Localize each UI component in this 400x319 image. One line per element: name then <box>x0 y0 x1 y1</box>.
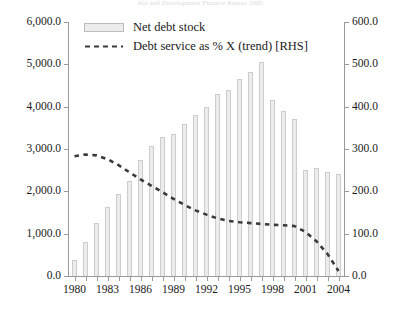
left-axis-label-3000: 3,000.0 <box>27 143 62 155</box>
bar-1986 <box>138 160 144 276</box>
bar-2002 <box>314 168 320 276</box>
x-axis-tick <box>306 277 307 281</box>
bar-1980 <box>72 260 78 276</box>
right-axis-tick <box>345 107 349 108</box>
x-axis-tick <box>251 277 252 281</box>
left-axis-tick <box>64 149 68 150</box>
bar-1992 <box>204 107 210 276</box>
bar-1999 <box>281 111 287 276</box>
x-axis-tick <box>262 277 263 281</box>
right-axis-label-500: 500.0 <box>352 58 378 70</box>
left-axis-label-6000: 6,000.0 <box>27 16 62 28</box>
x-axis-tick <box>97 277 98 281</box>
right-axis-label-300: 300.0 <box>352 143 378 155</box>
x-axis-tick <box>75 277 76 281</box>
right-axis-label-400: 400.0 <box>352 101 378 113</box>
x-axis-tick <box>207 277 208 281</box>
bar-1990 <box>182 124 188 276</box>
bar-1991 <box>193 115 199 276</box>
bar-2004 <box>336 174 342 276</box>
x-axis-tick <box>240 277 241 281</box>
left-axis-label-5000: 5,000.0 <box>27 58 62 70</box>
x-axis-tick <box>119 277 120 281</box>
bar-1998 <box>270 100 276 276</box>
right-axis-label-200: 200.0 <box>352 185 378 197</box>
bar-1987 <box>149 146 155 276</box>
x-axis-label-1998: 1998 <box>261 284 284 296</box>
x-axis-label-1986: 1986 <box>129 284 152 296</box>
right-axis-label-600: 600.0 <box>352 16 378 28</box>
x-axis-tick <box>163 277 164 281</box>
right-axis-label-100: 100.0 <box>352 228 378 240</box>
left-axis-label-0: 0.0 <box>47 270 61 282</box>
x-axis-label-2004: 2004 <box>327 284 350 296</box>
bar-1996 <box>248 72 254 276</box>
bar-1985 <box>127 181 133 276</box>
x-axis-tick <box>141 277 142 281</box>
left-axis-tick <box>64 107 68 108</box>
source-caption: Aid and Development Finance Report 2005 <box>0 0 400 7</box>
x-axis-label-2001: 2001 <box>294 284 317 296</box>
bar-1983 <box>105 207 111 276</box>
x-axis-label-1980: 1980 <box>63 284 86 296</box>
bar-1988 <box>160 137 166 276</box>
x-axis-tick <box>229 277 230 281</box>
right-axis-tick <box>345 64 349 65</box>
x-axis-tick <box>317 277 318 281</box>
right-axis-tick <box>345 276 349 277</box>
x-axis-tick <box>328 277 329 281</box>
x-axis-tick <box>273 277 274 281</box>
left-axis-label-2000: 2,000.0 <box>27 185 62 197</box>
left-axis-label-4000: 4,000.0 <box>27 101 62 113</box>
bar-1993 <box>215 94 221 276</box>
right-axis-tick <box>345 234 349 235</box>
x-axis-tick <box>86 277 87 281</box>
left-axis-tick <box>64 234 68 235</box>
x-axis-tick <box>295 277 296 281</box>
bar-1997 <box>259 62 265 276</box>
x-axis-tick <box>152 277 153 281</box>
plot-area: 0.01,000.02,000.03,000.04,000.05,000.06,… <box>68 22 345 277</box>
bar-2003 <box>325 172 331 276</box>
right-axis-tick <box>345 149 349 150</box>
left-axis-tick <box>64 276 68 277</box>
bar-series-net-debt-stock <box>68 22 345 277</box>
left-axis-label-1000: 1,000.0 <box>27 228 62 240</box>
bar-1994 <box>226 90 232 276</box>
bar-1989 <box>171 134 177 276</box>
bar-1982 <box>94 223 100 276</box>
right-axis-tick <box>345 22 349 23</box>
left-axis-tick <box>64 22 68 23</box>
bar-1984 <box>116 194 122 276</box>
x-axis-tick <box>218 277 219 281</box>
x-axis-label-1989: 1989 <box>162 284 185 296</box>
x-axis-label-1995: 1995 <box>228 284 251 296</box>
x-axis-tick <box>284 277 285 281</box>
bar-2001 <box>303 170 309 276</box>
right-axis-label-0: 0.0 <box>352 270 366 282</box>
left-axis-tick <box>64 191 68 192</box>
x-axis-tick <box>196 277 197 281</box>
right-axis-tick <box>345 191 349 192</box>
x-axis-tick <box>339 277 340 281</box>
x-axis-label-1983: 1983 <box>96 284 119 296</box>
x-axis-label-1992: 1992 <box>195 284 218 296</box>
x-axis-tick <box>130 277 131 281</box>
x-axis-tick <box>174 277 175 281</box>
left-axis-tick <box>64 64 68 65</box>
chart-figure: Aid and Development Finance Report 2005 … <box>0 0 400 319</box>
x-axis-tick <box>108 277 109 281</box>
bar-1995 <box>237 79 243 276</box>
bar-1981 <box>83 242 89 276</box>
bar-2000 <box>292 119 298 276</box>
x-axis-tick <box>185 277 186 281</box>
